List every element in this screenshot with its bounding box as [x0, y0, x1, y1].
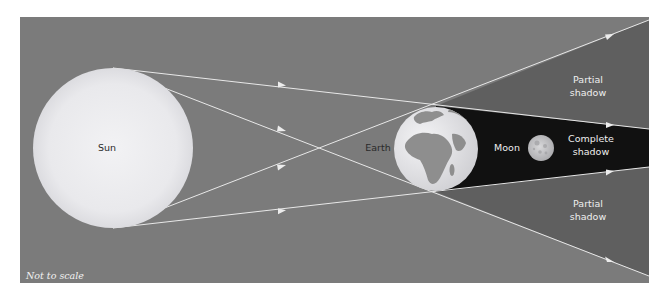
moon	[528, 135, 554, 161]
moon-label: Moon	[494, 142, 520, 153]
partial-shadow-top-label-line1: Partial	[573, 74, 603, 85]
complete-shadow-label-line2: shadow	[573, 146, 610, 157]
partial-shadow-bottom-label-line2: shadow	[570, 211, 607, 222]
sun-label: Sun	[98, 142, 116, 153]
partial-shadow-top-label-line2: shadow	[570, 87, 607, 98]
not-to-scale-note: Not to scale	[25, 270, 84, 281]
eclipse-diagram: Sun Earth Moon Partial shadow Complete s…	[0, 0, 669, 300]
earth-label: Earth	[365, 142, 390, 153]
partial-shadow-bottom-label-line1: Partial	[573, 198, 603, 209]
complete-shadow-label-line1: Complete	[568, 133, 614, 144]
